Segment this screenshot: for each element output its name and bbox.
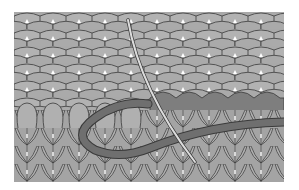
knitting-illustration [0, 0, 299, 190]
fabric [14, 12, 284, 182]
dark-stitch-row [150, 92, 284, 112]
knitting-diagram [0, 0, 299, 190]
